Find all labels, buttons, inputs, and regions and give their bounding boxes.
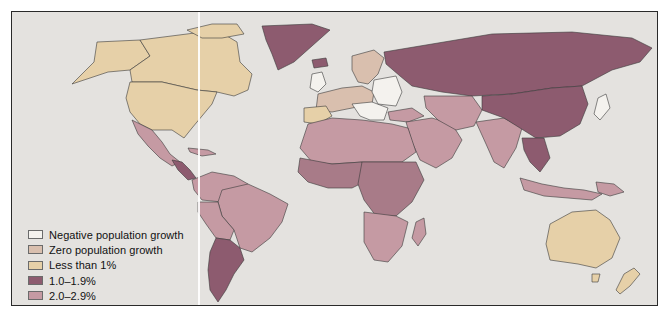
map-frame: Negative population growth Zero populati…	[11, 11, 658, 306]
legend-item-1-to-1-9: 1.0–1.9%	[28, 273, 184, 288]
image-seam-line	[198, 12, 200, 305]
region-india	[476, 118, 522, 168]
region-eastern-europe	[372, 76, 402, 106]
region-madagascar	[412, 218, 426, 246]
legend-swatch-negative	[28, 230, 43, 239]
legend-item-negative: Negative population growth	[28, 227, 184, 242]
region-argentina-chile	[208, 238, 244, 302]
legend-item-zero: Zero population growth	[28, 242, 184, 257]
region-southern-africa	[364, 212, 408, 262]
region-uk	[310, 72, 326, 92]
legend-label: Less than 1%	[49, 259, 116, 271]
map-legend: Negative population growth Zero populati…	[28, 227, 184, 306]
legend-swatch-1-to-1-9	[28, 276, 43, 285]
region-australia	[546, 210, 620, 268]
region-central-america	[172, 160, 196, 180]
legend-swatch-zero	[28, 245, 43, 254]
legend-item-2-to-2-9: 2.0–2.9%	[28, 288, 184, 303]
legend-item-more-than-3: More than 3%	[28, 303, 184, 306]
legend-label: 1.0–1.9%	[49, 275, 96, 287]
region-indonesia	[520, 178, 602, 200]
region-southeast-asia	[522, 138, 550, 172]
region-north-africa	[300, 118, 416, 164]
legend-item-less-than-1: Less than 1%	[28, 258, 184, 273]
region-new-zealand	[616, 268, 640, 294]
legend-swatch-less-than-1	[28, 261, 43, 270]
legend-label: 2.0–2.9%	[49, 290, 96, 302]
region-russia	[384, 32, 652, 96]
region-japan	[594, 94, 610, 120]
legend-label: More than 3%	[49, 305, 118, 306]
region-iceland	[312, 58, 328, 68]
legend-label: Zero population growth	[49, 244, 163, 256]
legend-label: Negative population growth	[49, 229, 184, 241]
legend-swatch-2-to-2-9	[28, 291, 43, 300]
region-central-east-africa	[358, 162, 424, 216]
region-tasmania	[592, 274, 600, 282]
region-caribbean	[188, 148, 216, 156]
